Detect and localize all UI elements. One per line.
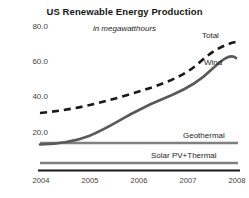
- series-label-solar-pv-thermal: Solar PV+Thermal: [151, 151, 217, 160]
- series-line-total: [40, 42, 236, 113]
- series-label-wind: Wind: [204, 58, 222, 67]
- chart-container: US Renewable Energy Production in megawa…: [0, 0, 249, 198]
- series-label-geothermal: Geothermal: [183, 131, 225, 140]
- chart-plot-area: [0, 0, 249, 198]
- series-label-total: Total: [202, 31, 219, 40]
